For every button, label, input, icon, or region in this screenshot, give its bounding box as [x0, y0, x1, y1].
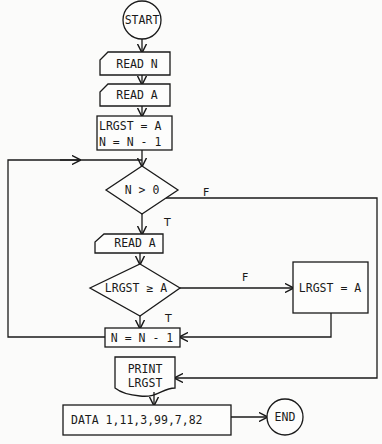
- data-node: DATA 1,11,3,99,7,82: [63, 405, 231, 435]
- read-a-label-1: READ A: [116, 88, 158, 102]
- cond-lrgst-false-label: F: [242, 271, 248, 284]
- cond-n-node: N > 0: [106, 166, 178, 214]
- print-line1: PRINT: [128, 362, 163, 376]
- cond-n-true-label: T: [163, 216, 171, 229]
- data-label: DATA 1,11,3,99,7,82: [71, 413, 203, 427]
- flowchart: START READ N READ A LRGST = A N = N - 1 …: [0, 0, 382, 444]
- decrement-process-node: N = N - 1: [105, 328, 180, 347]
- assign-process-node: LRGST = A: [293, 262, 368, 313]
- cond-lrgst-label: LRGST ≥ A: [105, 281, 167, 295]
- cond-n-false-label: F: [203, 186, 209, 199]
- print-output-node: PRINT LRGST: [115, 357, 175, 396]
- read-n-node: READ N: [100, 52, 170, 75]
- init-line2: N = N - 1: [99, 135, 161, 149]
- end-node: END: [267, 399, 303, 435]
- start-node: START: [123, 1, 161, 39]
- read-a-node-1: READ A: [100, 84, 170, 106]
- end-label: END: [275, 410, 296, 424]
- cond-n-label: N > 0: [125, 183, 160, 197]
- cond-lrgst-true-label: T: [164, 312, 172, 325]
- edge-assign-decrement: [180, 313, 331, 337]
- start-label: START: [125, 13, 160, 27]
- decrement-label: N = N - 1: [111, 331, 173, 345]
- init-line1: LRGST = A: [99, 119, 161, 133]
- cond-lrgst-node: LRGST ≥ A: [90, 264, 180, 316]
- print-line2: LRGST: [128, 376, 163, 390]
- init-process-node: LRGST = A N = N - 1: [97, 116, 172, 150]
- assign-label: LRGST = A: [299, 281, 361, 295]
- read-a-label-2: READ A: [114, 236, 156, 250]
- read-n-label: READ N: [116, 57, 158, 71]
- read-a-node-2: READ A: [95, 234, 163, 253]
